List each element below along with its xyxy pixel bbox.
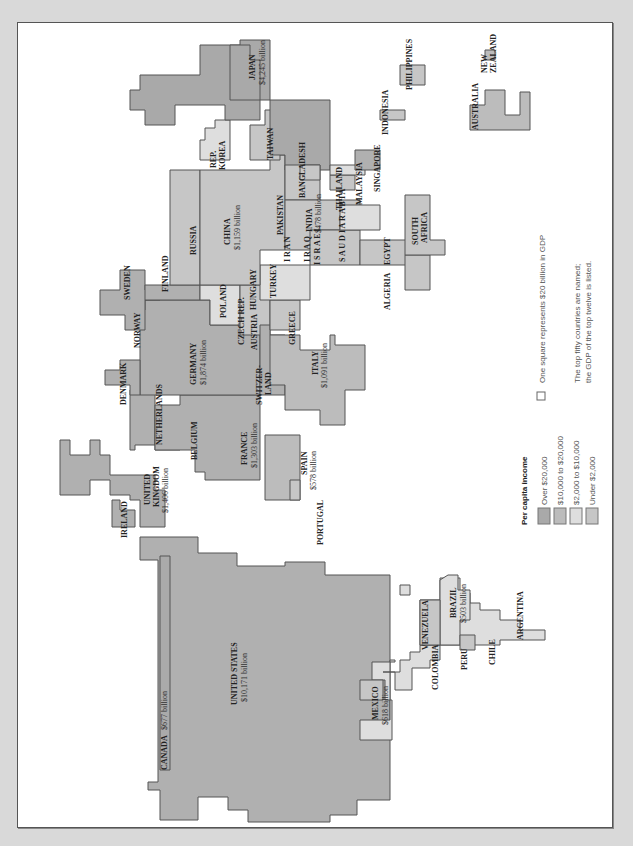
label-netherlands: NETHERLANDS bbox=[155, 384, 164, 445]
square-note: One square represents $20 billion in GDP bbox=[538, 235, 547, 383]
legend-swatch-2000-10000 bbox=[570, 508, 582, 524]
label-china: CHINA bbox=[223, 218, 232, 245]
label-israel: I S R A E L bbox=[313, 226, 322, 265]
label-bangladesh: BANGLADESH bbox=[298, 141, 307, 198]
italy-shape[interactable] bbox=[270, 335, 365, 425]
label-germany: GERMANY bbox=[189, 343, 198, 385]
label-usa: UNITED STATES bbox=[230, 642, 239, 705]
label-korea-2: KOREA bbox=[218, 140, 227, 170]
label-chile: CHILE bbox=[488, 639, 497, 665]
label-sweden: SWEDEN bbox=[123, 265, 132, 300]
algeria-shape[interactable] bbox=[405, 255, 430, 290]
peru-shape[interactable] bbox=[460, 635, 475, 650]
label-poland: POLAND bbox=[219, 284, 228, 318]
usa-shape[interactable] bbox=[140, 537, 390, 822]
legend-title: Per capita income bbox=[520, 456, 529, 525]
gdp-japan: $4,245 billion bbox=[258, 40, 267, 85]
label-austria: AUSTRIA bbox=[250, 314, 259, 350]
legend-swatch-over-20000 bbox=[538, 508, 550, 524]
note-line-1: The top fifty countries are named; bbox=[573, 264, 582, 383]
label-uk-2: KINGDOM bbox=[152, 466, 161, 507]
label-nz-1: NEW bbox=[480, 54, 489, 73]
turkey-shape[interactable] bbox=[260, 265, 310, 300]
square-unit-icon bbox=[537, 392, 545, 400]
gdp-brazil: $503 billion bbox=[459, 584, 468, 623]
gdp-germany: $1,874 billion bbox=[199, 340, 208, 385]
label-denmark: DENMARK bbox=[119, 362, 128, 405]
label-ireland: IRELAND bbox=[120, 501, 129, 538]
label-switzerland-1: SWITZER- bbox=[255, 365, 264, 405]
gdp-usa: $10,171 billion bbox=[240, 653, 249, 702]
gdp-france: $1,303 billion bbox=[250, 423, 259, 468]
label-argentina: ARGENTINA bbox=[516, 591, 525, 640]
label-czech: CZECH REP. bbox=[237, 297, 246, 345]
label-south-africa-2: AFRICA bbox=[420, 212, 429, 243]
label-australia: AUSTRALIA bbox=[471, 83, 480, 130]
label-finland: FINLAND bbox=[161, 255, 170, 292]
label-canada: CANADA bbox=[160, 735, 169, 770]
label-greece: GREECE bbox=[288, 311, 297, 345]
label-russia: RUSSIA bbox=[189, 225, 198, 255]
label-japan: JAPAN bbox=[248, 54, 257, 80]
label-algeria: ALGERIA bbox=[383, 272, 392, 310]
gdp-canada: $677 billion bbox=[160, 691, 169, 730]
gdp-mexico: $618 billion bbox=[381, 686, 390, 725]
label-colombia: COLOMBIA bbox=[431, 644, 440, 690]
label-iran: I R A N bbox=[283, 236, 292, 262]
label-portugal: PORTUGAL bbox=[316, 500, 325, 545]
label-indonesia: INDONESIA bbox=[381, 89, 390, 135]
legend-label-2000-10000: $2,000 to $10,000 bbox=[572, 440, 581, 505]
label-uk-1: UNITED bbox=[143, 474, 152, 505]
label-switzerland-2: LAND bbox=[264, 372, 273, 395]
gdp-china: $1,159 billion bbox=[233, 205, 242, 250]
label-pakistan: PAKISTAN bbox=[276, 195, 285, 235]
legend-swatch-10000-20000 bbox=[554, 508, 566, 524]
gdp-spain: $578 billion bbox=[309, 451, 318, 490]
label-korea-1: REP. bbox=[209, 151, 218, 168]
label-venezuela: VENEZUELA bbox=[421, 600, 430, 650]
label-italy: ITALY bbox=[311, 351, 320, 375]
label-spain: SPAIN bbox=[300, 451, 309, 475]
label-malaysia: MALAYSIA bbox=[355, 162, 364, 205]
legend: Per capita income Over $20,000 $10,000 t… bbox=[520, 235, 598, 525]
label-south-africa-1: SOUTH bbox=[411, 216, 420, 245]
note-line-2: the GDP of the top twelve is listed. bbox=[584, 261, 593, 383]
label-turkey: TURKEY bbox=[269, 264, 278, 298]
portugal-shape[interactable] bbox=[290, 480, 300, 500]
carib-shape[interactable] bbox=[400, 585, 410, 595]
label-france: FRANCE bbox=[240, 432, 249, 465]
label-taiwan: TAIWAN bbox=[266, 127, 275, 160]
label-thailand: THAILAND bbox=[335, 167, 344, 210]
gdp-uk: $1,406 billion bbox=[161, 468, 170, 513]
label-hungary: HUNGARY bbox=[249, 269, 258, 310]
finland-shape[interactable] bbox=[145, 285, 200, 300]
label-norway: NORWAY bbox=[133, 312, 142, 348]
cartogram-map: UNITED STATES $10,171 billion CANADA $67… bbox=[0, 0, 633, 846]
label-philippines: PHILIPPINES bbox=[405, 38, 414, 90]
label-mexico: MEXICO bbox=[371, 686, 380, 720]
legend-label-under-2000: Under $2,000 bbox=[588, 456, 597, 505]
label-singapore: SINGAPORE bbox=[373, 144, 382, 192]
gdp-italy: $1,091 billion bbox=[320, 343, 329, 388]
label-nz-2: ZEALAND bbox=[489, 34, 498, 73]
label-egypt: EGYPT bbox=[383, 237, 392, 265]
legend-swatch-under-2000 bbox=[586, 508, 598, 524]
label-iraq: I R A Q bbox=[303, 236, 312, 262]
legend-label-10000-20000: $10,000 to $20,000 bbox=[556, 435, 565, 505]
label-belgium: BELGIUM bbox=[190, 421, 199, 460]
label-peru: PERU bbox=[460, 648, 469, 670]
label-brazil: BRAZIL bbox=[449, 587, 458, 618]
legend-label-over-20000: Over $20,000 bbox=[540, 456, 549, 505]
